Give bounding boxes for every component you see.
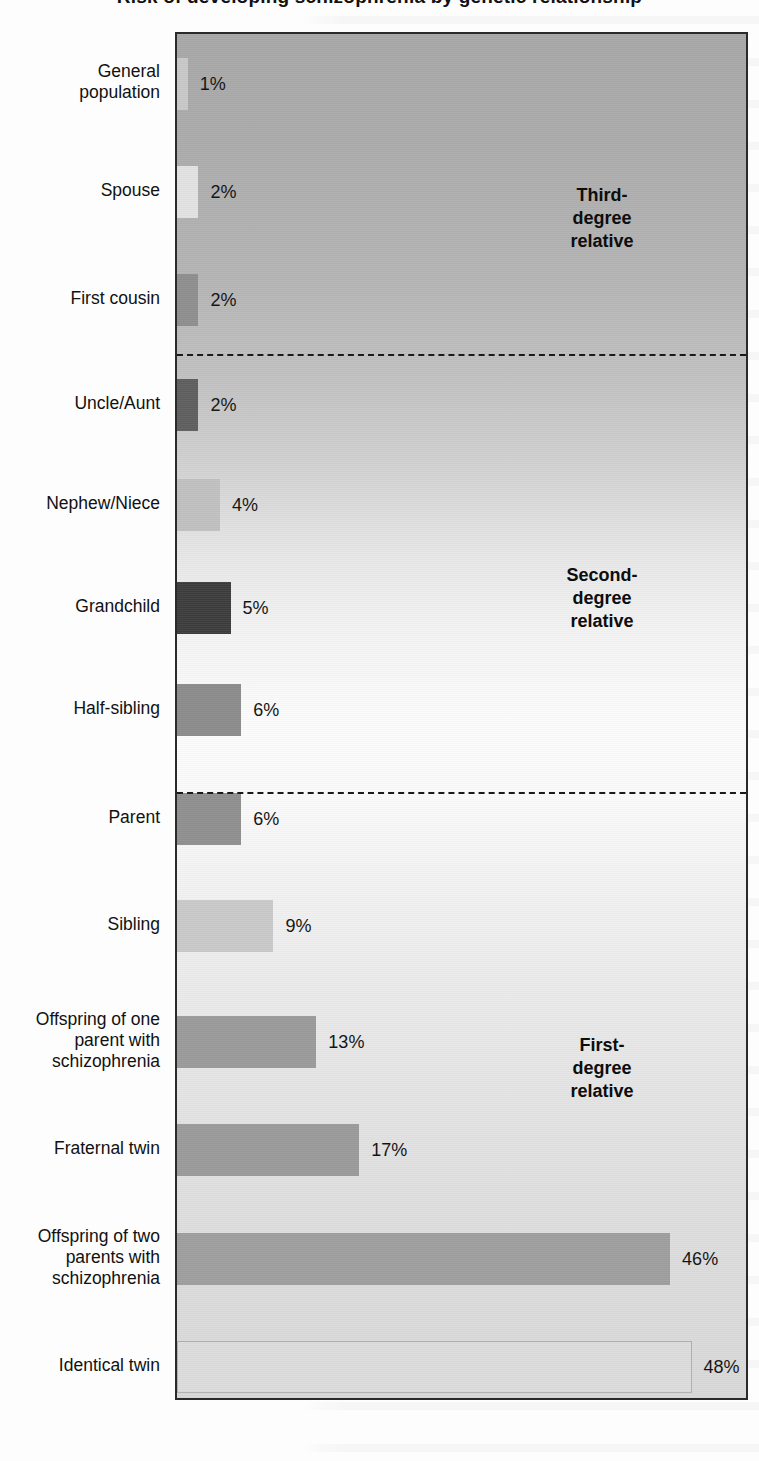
category-label: Parent xyxy=(0,807,160,828)
bar xyxy=(177,274,198,326)
bar xyxy=(177,479,220,531)
bar-value-label: 2% xyxy=(210,379,236,431)
bar xyxy=(177,582,231,634)
category-label: Identical twin xyxy=(0,1355,160,1376)
bar xyxy=(177,1233,670,1285)
category-label: Nephew/Niece xyxy=(0,493,160,514)
bar xyxy=(177,379,198,431)
category-label: Uncle/Aunt xyxy=(0,393,160,414)
category-label: Grandchild xyxy=(0,596,160,617)
category-label: First cousin xyxy=(0,288,160,309)
category-label: Spouse xyxy=(0,180,160,201)
category-label: Half-sibling xyxy=(0,698,160,719)
group-annotation-third-degree: Third- degree relative xyxy=(507,184,697,253)
bar-value-label: 17% xyxy=(371,1124,407,1176)
category-label: Offspring of two parents with schizophre… xyxy=(0,1226,160,1289)
group-separator xyxy=(177,354,746,356)
bar-value-label: 13% xyxy=(328,1016,364,1068)
bar xyxy=(177,1124,359,1176)
category-label: Sibling xyxy=(0,914,160,935)
category-label: General population xyxy=(0,61,160,103)
bar-value-label: 9% xyxy=(285,900,311,952)
figure-title: Risk of developing schizophrenia by gene… xyxy=(0,0,759,8)
bar xyxy=(177,58,188,110)
bar-value-label: 5% xyxy=(243,582,269,634)
bar xyxy=(177,684,241,736)
group-separator xyxy=(177,792,746,794)
bar-value-label: 6% xyxy=(253,793,279,845)
category-label: Fraternal twin xyxy=(0,1138,160,1159)
bar xyxy=(177,166,198,218)
bar xyxy=(177,793,241,845)
category-label: Offspring of one parent with schizophren… xyxy=(0,1009,160,1072)
group-annotation-first-degree: First- degree relative xyxy=(507,1034,697,1103)
bar-value-label: 2% xyxy=(210,274,236,326)
bar-value-label: 46% xyxy=(682,1233,718,1285)
bar-value-label: 2% xyxy=(210,166,236,218)
bar xyxy=(177,900,273,952)
bar xyxy=(177,1341,692,1393)
bar-value-label: 48% xyxy=(704,1341,740,1393)
bar xyxy=(177,1016,316,1068)
bar-value-label: 4% xyxy=(232,479,258,531)
group-annotation-second-degree: Second- degree relative xyxy=(507,564,697,633)
bar-value-label: 1% xyxy=(200,58,226,110)
bar-value-label: 6% xyxy=(253,684,279,736)
bar-chart-plot-area: 1%2%2%2%4%5%6%6%9%13%17%46%48% Third- de… xyxy=(175,32,748,1400)
